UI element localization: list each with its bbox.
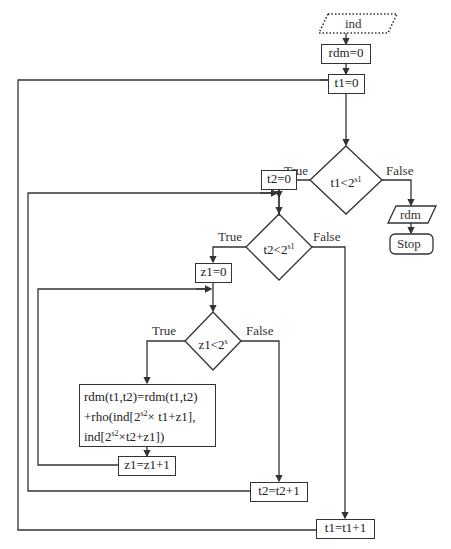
process-update-rdm[interactable]: rdm(t1,t2)=rdm(t1,t2) +rho(ind[2s2× t1+z… — [79, 384, 216, 447]
decision-t2-exponent: s1 — [287, 242, 294, 251]
update-line-2: +rho(ind[2s2× t1+z1], — [84, 405, 211, 425]
z1-true-label: True — [152, 323, 176, 338]
update-line-2a: +rho(ind[2 — [84, 409, 140, 424]
process-rdm-init[interactable]: rdm=0 — [321, 44, 371, 64]
decision-t1-text: t1<2 — [330, 175, 354, 190]
decision-t1[interactable]: t1<2s1 — [311, 172, 381, 190]
update-line-3b: ×t2+z1]) — [119, 429, 165, 444]
input-ind[interactable]: ind — [345, 16, 362, 31]
process-t2-increment[interactable]: t2=t2+1 — [250, 482, 308, 502]
process-t2-init[interactable]: t2=0 — [261, 170, 297, 190]
decision-z1-text: z1<2 — [198, 337, 224, 352]
update-line-2-exponent: s2 — [140, 409, 147, 418]
update-line-1: rdm(t1,t2)=rdm(t1,t2) — [84, 388, 211, 405]
process-z1-init[interactable]: z1=0 — [195, 263, 232, 283]
process-t1-init[interactable]: t1=0 — [328, 74, 365, 94]
output-rdm[interactable]: rdm — [400, 207, 421, 222]
z1-false-label: False — [246, 323, 273, 338]
decision-t2[interactable]: t2<2s1 — [244, 239, 314, 257]
t1-false-label: False — [386, 163, 413, 178]
stop-terminal[interactable]: Stop — [397, 236, 421, 251]
decision-t1-exponent: s1 — [354, 175, 361, 184]
t2-false-label: False — [313, 229, 340, 244]
decision-z1-exponent: s — [224, 337, 227, 346]
process-t1-increment[interactable]: t1=t1+1 — [316, 519, 375, 539]
update-line-3: ind[2s2×t2+z1]) — [84, 425, 211, 445]
update-line-2b: × t1+z1], — [148, 409, 196, 424]
update-line-3-exponent: s2 — [111, 429, 118, 438]
decision-z1[interactable]: z1<2s — [178, 334, 248, 352]
decision-t2-text: t2<2 — [263, 242, 287, 257]
t2-true-label: True — [218, 229, 242, 244]
update-line-3a: ind[2 — [84, 429, 111, 444]
process-z1-increment[interactable]: z1=z1+1 — [118, 456, 176, 476]
